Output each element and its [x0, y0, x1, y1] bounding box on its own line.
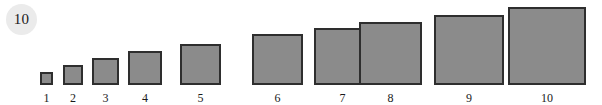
bar-group: 6 — [258, 0, 298, 105]
squares-plot-area: 12345678910 — [0, 0, 602, 105]
bar-group: 7 — [323, 0, 363, 105]
bar-label: 9 — [449, 92, 489, 104]
bar-label: 8 — [371, 92, 411, 104]
bar-group: 4 — [125, 0, 165, 105]
bar-square — [359, 22, 422, 85]
bar-group: 5 — [181, 0, 221, 105]
bar-square — [63, 65, 83, 85]
bar-group: 8 — [371, 0, 411, 105]
bar-square — [508, 7, 586, 85]
bar-square — [92, 58, 119, 85]
bar-label: 7 — [323, 92, 363, 104]
bar-label: 3 — [86, 92, 126, 104]
bar-label: 5 — [181, 92, 221, 104]
bar-square — [40, 72, 53, 85]
bar-label: 4 — [125, 92, 165, 104]
bar-square — [128, 51, 162, 85]
bar-square — [434, 15, 504, 85]
bar-square — [252, 34, 303, 85]
bar-group: 10 — [527, 0, 567, 105]
bar-label: 10 — [527, 92, 567, 104]
bar-label: 6 — [258, 92, 298, 104]
figure-container: 10 12345678910 — [0, 0, 602, 105]
bar-group: 3 — [86, 0, 126, 105]
bar-group: 9 — [449, 0, 489, 105]
bar-square — [180, 44, 221, 85]
